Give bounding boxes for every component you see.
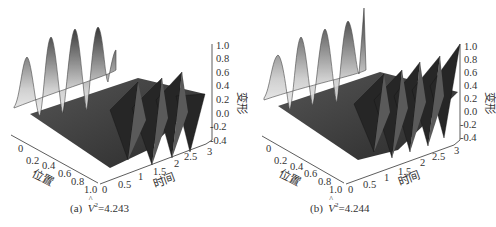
svg-text:0.4: 0.4	[216, 80, 230, 91]
svg-text:1.0: 1.0	[84, 184, 97, 195]
svg-text:3: 3	[454, 145, 459, 156]
svg-text:1: 1	[138, 171, 143, 182]
svg-text:0.2: 0.2	[216, 94, 229, 105]
chart-panel-a: 1.0 0.8 0.6 0.4 0.2 0.0 -0.2 -0.4 变形 0 0…	[0, 0, 248, 227]
svg-text:1.0: 1.0	[329, 184, 342, 195]
svg-text:0: 0	[266, 143, 271, 154]
svg-text:0.4: 0.4	[42, 160, 56, 171]
svg-text:1.0: 1.0	[216, 40, 229, 51]
caption-a: (a) V2=4.243	[70, 201, 129, 214]
z-axis-ticks: 1.0 0.8 0.6 0.4 0.2 0.0 -0.2 -0.4	[210, 40, 230, 146]
svg-text:2: 2	[174, 158, 179, 169]
svg-text:0: 0	[348, 184, 353, 195]
svg-text:1.0: 1.0	[464, 41, 477, 52]
svg-text:0.6: 0.6	[464, 67, 477, 78]
svg-text:0.6: 0.6	[304, 168, 317, 179]
svg-text:-0.4: -0.4	[210, 135, 227, 146]
svg-text:0.5: 0.5	[363, 179, 376, 190]
svg-text:0.8: 0.8	[216, 53, 229, 64]
caption-b: (b) V2=4.244	[310, 201, 370, 214]
z-axis-ticks: 1.0 0.8 0.6 0.4 0.2 0.0 -0.2 -0.4	[460, 41, 478, 143]
svg-text:0.0: 0.0	[464, 106, 477, 117]
chart-panel-b: 1.0 0.8 0.6 0.4 0.2 0.0 -0.2 -0.4 变形 0 0…	[248, 0, 496, 227]
z-axis-label: 变形	[235, 92, 248, 115]
surface-plot-b: 1.0 0.8 0.6 0.4 0.2 0.0 -0.2 -0.4 变形 0 0…	[248, 0, 496, 227]
z-axis-label: 变形	[483, 92, 496, 115]
svg-text:0.2: 0.2	[464, 93, 477, 104]
sawtooth-surface	[354, 44, 460, 158]
svg-text:2.5: 2.5	[184, 151, 197, 162]
svg-text:1: 1	[384, 172, 389, 183]
svg-text:2.5: 2.5	[432, 151, 445, 162]
surface-plot-a: 1.0 0.8 0.6 0.4 0.2 0.0 -0.2 -0.4 变形 0 0…	[0, 0, 248, 227]
svg-text:-0.2: -0.2	[210, 121, 227, 132]
svg-text:0.2: 0.2	[274, 155, 287, 166]
x-axis-ticks: 0 0.2 0.4 0.6 0.8 1.0	[266, 143, 342, 195]
svg-text:-0.2: -0.2	[460, 119, 477, 130]
svg-text:-0.4: -0.4	[460, 132, 477, 143]
svg-text:0.8: 0.8	[71, 176, 84, 187]
svg-text:0.6: 0.6	[216, 67, 229, 78]
svg-text:2: 2	[420, 157, 425, 168]
svg-text:0: 0	[102, 184, 107, 195]
svg-text:0.2: 0.2	[26, 155, 39, 166]
svg-text:0.8: 0.8	[464, 54, 477, 65]
svg-text:0.0: 0.0	[216, 108, 229, 119]
svg-text:3: 3	[207, 146, 212, 157]
svg-text:0.4: 0.4	[464, 80, 478, 91]
svg-text:0.5: 0.5	[118, 179, 131, 190]
svg-text:0: 0	[18, 143, 23, 154]
svg-text:0.6: 0.6	[58, 168, 71, 179]
